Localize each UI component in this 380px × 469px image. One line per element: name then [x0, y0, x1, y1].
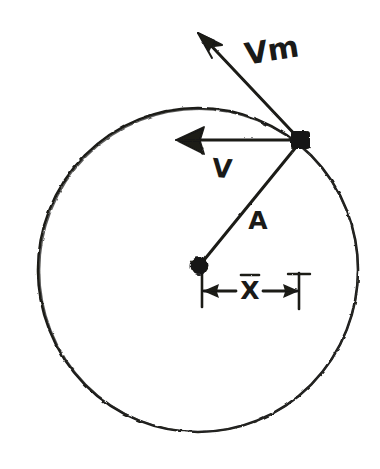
label-a: A: [248, 206, 268, 235]
label-vm: Vm: [242, 28, 301, 71]
particle-dot: [291, 131, 310, 149]
label-x: X: [240, 276, 259, 305]
circle-center-dot: [190, 257, 209, 275]
label-v: V: [211, 153, 233, 184]
figure-canvas: Vm V A X: [0, 0, 380, 469]
reference-circle-diagram: Vm V A X: [0, 0, 380, 469]
